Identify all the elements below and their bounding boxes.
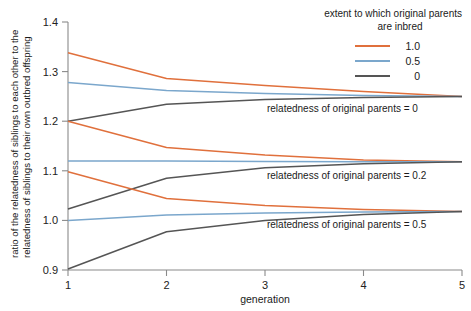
chart-axes: [68, 22, 462, 270]
x-axis-title: generation: [240, 293, 290, 305]
y-tick-label: 1.3: [43, 66, 58, 78]
legend-entry-label: 0.5: [405, 55, 420, 67]
y-axis-title-line2: relatedness of siblings to their own out…: [21, 36, 32, 258]
plot-annotation: relatedness of original parents = 0: [267, 103, 418, 114]
y-tick-label: 1.1: [43, 165, 58, 177]
x-tick-label: 2: [163, 279, 169, 291]
series-lines: [68, 53, 462, 269]
x-axis-ticks: 12345: [65, 270, 465, 291]
line-chart: 0.91.01.11.21.31.4 12345 relatedness of …: [0, 0, 471, 311]
y-axis-title-line1: ratio of the relatedness of siblings to …: [9, 30, 20, 258]
legend-entry-label: 0: [414, 70, 420, 82]
series-line: [68, 53, 462, 97]
y-tick-label: 1.0: [43, 214, 58, 226]
series-line: [68, 121, 462, 162]
y-tick-label: 1.4: [43, 16, 58, 28]
plot-annotation: relatedness of original parents = 0.2: [267, 170, 427, 181]
x-tick-label: 3: [262, 279, 268, 291]
legend-entry-label: 1.0: [405, 40, 420, 52]
x-tick-label: 5: [459, 279, 465, 291]
plot-annotation: relatedness of original parents = 0.5: [267, 219, 427, 230]
x-tick-label: 1: [65, 279, 71, 291]
legend-entry-list: 1.00.50: [355, 40, 420, 82]
chart-legend: extent to which original parents are inb…: [324, 8, 462, 82]
legend-title-line2: are inbred: [377, 21, 422, 32]
legend-title-line1: extent to which original parents: [324, 8, 462, 19]
series-group: [68, 121, 462, 209]
series-line: [68, 83, 462, 97]
x-tick-label: 4: [360, 279, 366, 291]
chart-figure: 0.91.01.11.21.31.4 12345 relatedness of …: [0, 0, 471, 311]
y-tick-label: 0.9: [43, 264, 58, 276]
y-tick-label: 1.2: [43, 115, 58, 127]
y-axis-ticks: 0.91.01.11.21.31.4: [43, 16, 68, 276]
